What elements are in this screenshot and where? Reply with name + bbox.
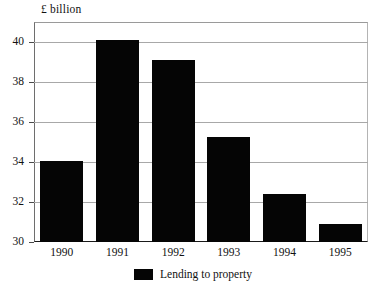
chart-legend: Lending to property: [0, 268, 386, 280]
bar-1993: [207, 137, 250, 242]
legend-label: Lending to property: [160, 268, 252, 280]
legend-swatch-icon: [134, 269, 153, 280]
x-axis-label-1995: 1995: [310, 247, 370, 259]
bar-1990: [40, 161, 83, 242]
y-axis-title: £ billion: [41, 3, 81, 15]
y-axis-tick-label: 36: [0, 116, 24, 128]
gridline: [34, 122, 368, 123]
y-axis-tick-label: 38: [0, 76, 24, 88]
y-axis-tick-mark: [29, 202, 34, 203]
y-axis-tick-label: 32: [0, 196, 24, 208]
bar-1992: [152, 60, 195, 242]
y-axis-tick-mark: [29, 82, 34, 83]
gridline: [34, 162, 368, 163]
x-axis-label-1992: 1992: [143, 247, 203, 259]
y-axis-tick-mark: [29, 162, 34, 163]
y-axis-tick-mark: [29, 42, 34, 43]
x-axis-label-1990: 1990: [32, 247, 92, 259]
bar-1994: [263, 194, 306, 242]
gridline: [34, 42, 368, 43]
y-axis-tick-mark: [29, 122, 34, 123]
x-axis-label-1993: 1993: [199, 247, 259, 259]
x-axis-label-1991: 1991: [88, 247, 148, 259]
y-axis-tick-label: 30: [0, 236, 24, 248]
gridline: [34, 202, 368, 203]
gridline: [34, 82, 368, 83]
x-axis-label-1994: 1994: [255, 247, 315, 259]
y-axis-tick-label: 34: [0, 156, 24, 168]
plot-area: [34, 22, 368, 242]
bar-1991: [96, 40, 139, 242]
bar-1995: [319, 224, 362, 242]
y-axis-tick-mark: [29, 242, 34, 243]
chart-page: £ billion 303234363840 19901991199219931…: [0, 0, 386, 293]
y-axis-tick-label: 40: [0, 36, 24, 48]
